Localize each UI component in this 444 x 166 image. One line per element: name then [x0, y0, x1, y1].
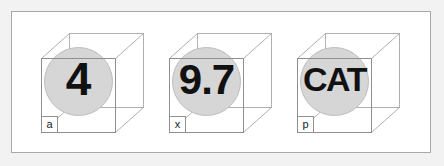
cube-with-sphere-icon: x 9.7	[158, 12, 288, 154]
panel-a: a 4	[30, 12, 160, 154]
panel-value: 4	[66, 53, 92, 105]
figure-root: a 4 x 9.7	[0, 0, 444, 166]
figure-frame: a 4 x 9.7	[11, 11, 431, 153]
cube-with-sphere-icon: a 4	[30, 12, 160, 154]
panel-row: a 4 x 9.7	[12, 12, 432, 154]
panel-x: x 9.7	[158, 12, 288, 154]
panel-label: a	[46, 118, 53, 130]
panel-value: 9.7	[179, 56, 234, 103]
panel-p: p CAT	[286, 12, 416, 154]
cube-with-sphere-icon: p CAT	[286, 12, 416, 154]
panel-label: p	[302, 118, 308, 130]
panel-value: CAT	[303, 60, 368, 98]
panel-label: x	[175, 118, 181, 130]
